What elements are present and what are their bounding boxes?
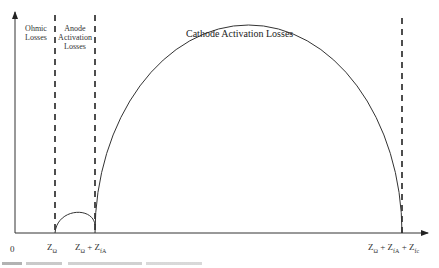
figure-caption-cutoff	[2, 258, 202, 268]
anode-semicircle	[55, 212, 95, 233]
cathode-semicircle	[95, 25, 402, 233]
x-tick-total-impedance: ZΩ + ZfA + Zfc	[368, 242, 419, 254]
caption-placeholder	[2, 262, 202, 265]
x-tick-origin: 0	[10, 244, 15, 254]
x-tick-z-omega: ZΩ	[47, 242, 57, 254]
anode-activation-losses-label: Anode Activation Losses	[56, 24, 94, 51]
x-tick-z-omega-plus-zfa: ZΩ + ZfA	[75, 242, 106, 254]
cathode-activation-losses-label: Cathode Activation Losses	[186, 28, 293, 39]
ohmic-losses-label: Ohmic Losses	[18, 24, 54, 42]
